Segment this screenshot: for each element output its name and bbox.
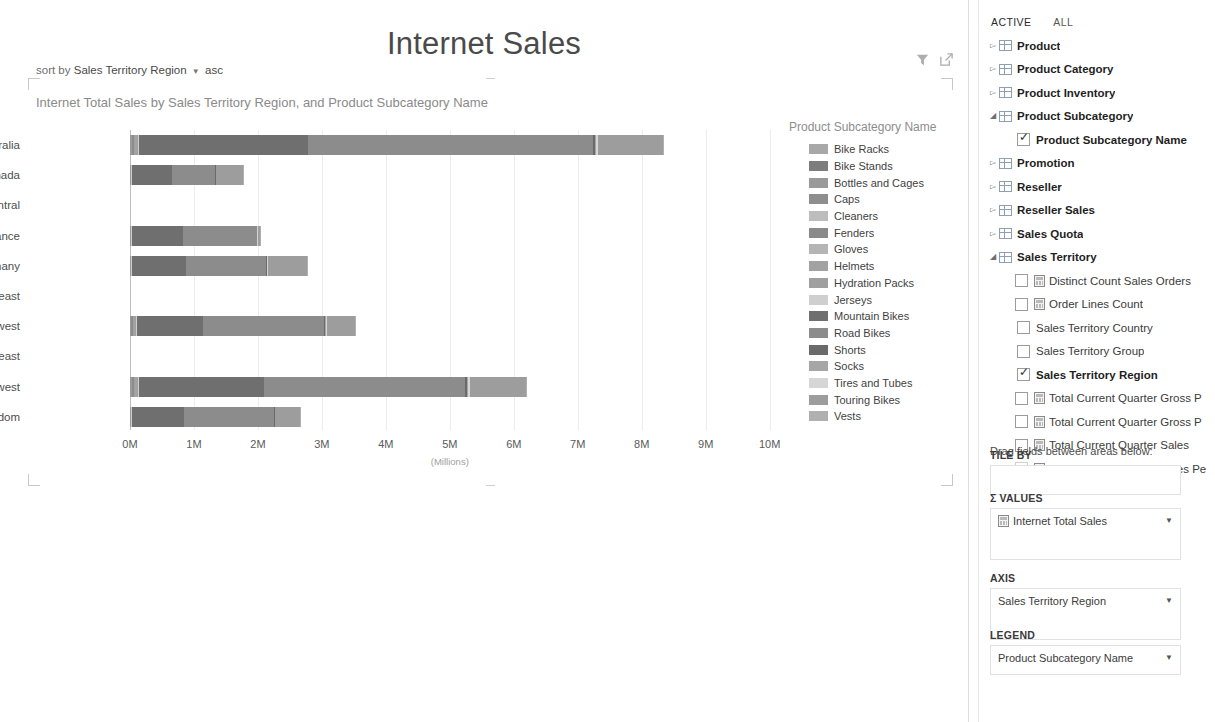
bar-segment[interactable]: [137, 316, 203, 336]
bar-segment[interactable]: [470, 377, 526, 397]
legend-item[interactable]: Bike Racks: [789, 141, 964, 158]
well-dropzone-values[interactable]: Internet Total Sales▼: [990, 508, 1181, 560]
bar-segment[interactable]: [264, 377, 465, 397]
field-list-row[interactable]: Total Current Quarter Gross P: [987, 410, 1215, 434]
field-list-row[interactable]: Order Lines Count: [987, 293, 1215, 317]
bar-segment[interactable]: [216, 165, 243, 185]
sort-field-button[interactable]: Sales Territory Region: [74, 64, 187, 76]
bar-segment[interactable]: [203, 316, 324, 336]
field-checkbox[interactable]: [1017, 368, 1030, 381]
field-list-row[interactable]: ▻Product Inventory: [987, 81, 1215, 105]
field-list-row[interactable]: ▻Product: [987, 34, 1215, 58]
panel-tab-all[interactable]: ALL: [1053, 16, 1073, 28]
bar-segment[interactable]: [598, 135, 663, 155]
legend-item[interactable]: Shorts: [789, 341, 964, 358]
field-list-row[interactable]: Distinct Count Sales Orders: [987, 269, 1215, 293]
filter-icon[interactable]: [915, 52, 930, 67]
resize-handle-top-right[interactable]: [941, 78, 953, 90]
bar-segment[interactable]: [526, 377, 527, 397]
resize-handle-bottom[interactable]: [486, 485, 495, 486]
legend-item[interactable]: Gloves: [789, 241, 964, 258]
sort-bar[interactable]: sort by Sales Territory Region ▼ asc: [36, 64, 223, 76]
bar-segment[interactable]: [307, 256, 308, 276]
bar-segment[interactable]: [186, 256, 267, 276]
legend-item[interactable]: Tires and Tubes: [789, 375, 964, 392]
field-list-row[interactable]: ▻Reseller Sales: [987, 199, 1215, 223]
bar-segment[interactable]: [260, 226, 261, 246]
field-list-row[interactable]: ▻Reseller: [987, 175, 1215, 199]
field-checkbox[interactable]: [1015, 415, 1028, 428]
legend-item[interactable]: Hydration Packs: [789, 275, 964, 292]
chevron-down-icon[interactable]: ▼: [1165, 596, 1173, 605]
bar-segment[interactable]: [184, 407, 274, 427]
field-list[interactable]: ▻Product▻Product Category▻Product Invent…: [987, 34, 1215, 481]
chevron-down-icon[interactable]: ◢: [987, 112, 999, 120]
well-field-chip[interactable]: Sales Territory Region▼: [992, 590, 1179, 611]
resize-handle-top[interactable]: [486, 78, 495, 79]
field-list-row[interactable]: Sales Territory Group: [987, 340, 1215, 364]
bar-segment[interactable]: [132, 256, 186, 276]
popout-icon[interactable]: [939, 52, 954, 67]
field-list-row[interactable]: ◢Product Subcategory: [987, 105, 1215, 129]
well-field-chip[interactable]: Product Subcategory Name▼: [992, 647, 1179, 668]
bar-segment[interactable]: [355, 316, 356, 336]
field-list-row[interactable]: Sales Territory Country: [987, 316, 1215, 340]
panel-tab-active[interactable]: ACTIVE: [991, 16, 1031, 28]
bar-segment[interactable]: [308, 135, 593, 155]
field-checkbox[interactable]: [1017, 345, 1030, 358]
bar-segment[interactable]: [268, 256, 308, 276]
bar-segment[interactable]: [139, 135, 309, 155]
bar-segment[interactable]: [243, 165, 244, 185]
chevron-right-icon[interactable]: ▻: [987, 206, 999, 214]
bar-segment[interactable]: [132, 407, 184, 427]
chevron-down-icon[interactable]: ▼: [1165, 653, 1173, 662]
legend-item[interactable]: Road Bikes: [789, 325, 964, 342]
bar-segment[interactable]: [663, 135, 664, 155]
legend-item[interactable]: Fenders: [789, 224, 964, 241]
resize-handle-bottom-left[interactable]: [28, 474, 40, 486]
field-checkbox[interactable]: [1017, 321, 1030, 334]
legend-item[interactable]: Touring Bikes: [789, 391, 964, 408]
bar-segment[interactable]: [132, 165, 172, 185]
bar-segment[interactable]: [172, 165, 215, 185]
chevron-right-icon[interactable]: ▻: [987, 159, 999, 167]
resize-handle-bottom-right[interactable]: [941, 474, 953, 486]
legend-item[interactable]: Mountain Bikes: [789, 308, 964, 325]
legend-item[interactable]: Vests: [789, 408, 964, 425]
chevron-right-icon[interactable]: ▻: [987, 183, 999, 191]
chevron-right-icon[interactable]: ▻: [987, 42, 999, 50]
chevron-right-icon[interactable]: ▻: [987, 89, 999, 97]
resize-handle-top-left[interactable]: [28, 78, 40, 90]
field-checkbox[interactable]: [1015, 392, 1028, 405]
bar-segment[interactable]: [132, 226, 183, 246]
legend-item[interactable]: Jerseys: [789, 291, 964, 308]
bar-segment[interactable]: [300, 407, 301, 427]
visual-toolbar[interactable]: [915, 52, 954, 67]
bar-segment[interactable]: [183, 226, 257, 246]
field-checkbox[interactable]: [1015, 274, 1028, 287]
well-dropzone-legend[interactable]: Product Subcategory Name▼: [990, 645, 1181, 675]
bar-chart-plot[interactable]: AustraliaCanadaCentralFranceGermanyNorth…: [28, 130, 808, 440]
legend-items[interactable]: Bike RacksBike StandsBottles and CagesCa…: [789, 141, 964, 425]
field-list-row[interactable]: ▻Sales Quota: [987, 222, 1215, 246]
field-list-row[interactable]: ▻Promotion: [987, 152, 1215, 176]
panel-tabs[interactable]: ACTIVEALL: [991, 16, 1073, 28]
well-dropzone-tile-by[interactable]: [990, 465, 1181, 495]
bar-segment[interactable]: [139, 377, 264, 397]
well-field-chip[interactable]: Internet Total Sales▼: [992, 510, 1179, 531]
field-list-row[interactable]: ◢Sales Territory: [987, 246, 1215, 270]
sort-direction-button[interactable]: asc: [205, 64, 223, 76]
chevron-down-icon[interactable]: ▼: [1165, 516, 1173, 525]
chart-legend[interactable]: Product Subcategory Name Bike RacksBike …: [789, 120, 964, 425]
field-checkbox[interactable]: [1017, 133, 1030, 146]
field-list-row[interactable]: Total Current Quarter Gross P: [987, 387, 1215, 411]
chevron-right-icon[interactable]: ▻: [987, 65, 999, 73]
field-list-row[interactable]: Sales Territory Region: [987, 363, 1215, 387]
chevron-down-icon[interactable]: ◢: [987, 253, 999, 261]
chevron-right-icon[interactable]: ▻: [987, 230, 999, 238]
legend-item[interactable]: Socks: [789, 358, 964, 375]
legend-item[interactable]: Caps: [789, 191, 964, 208]
field-list-row[interactable]: ▻Product Category: [987, 58, 1215, 82]
field-checkbox[interactable]: [1015, 298, 1028, 311]
panel-scrollbar[interactable]: [978, 0, 979, 722]
